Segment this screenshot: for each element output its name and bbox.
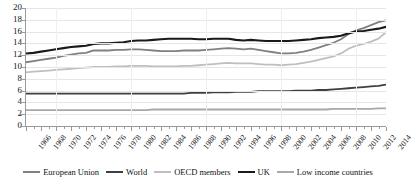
x-axis-tick	[101, 127, 102, 131]
x-axis-tick-label: 1996	[261, 133, 278, 151]
x-axis-tick	[244, 127, 245, 129]
x-axis-tick	[206, 127, 207, 131]
x-axis-tick-label: 1976	[111, 133, 128, 151]
x-axis-tick	[289, 127, 290, 129]
x-axis-tick	[56, 127, 57, 131]
x-axis-tick	[49, 127, 50, 129]
y-axis-tick	[20, 114, 25, 115]
x-axis-tick	[274, 127, 275, 129]
x-axis-tick-label: 2014	[396, 133, 413, 151]
x-axis-tick	[281, 127, 282, 131]
x-axis-tick-label: 1980	[141, 133, 158, 151]
x-axis-tick-label: 2010	[366, 133, 383, 151]
x-axis-tick	[266, 127, 267, 131]
x-axis-tick-label: 1994	[246, 133, 263, 151]
legend-item[interactable]: European Union	[23, 167, 99, 177]
x-axis-tick	[154, 127, 155, 129]
x-axis-tick	[259, 127, 260, 129]
x-axis-tick	[371, 127, 372, 131]
legend-swatch-icon	[23, 171, 40, 173]
x-axis-tick	[41, 127, 42, 131]
x-axis-tick-label: 1986	[186, 133, 203, 151]
x-axis-tick-label: 1978	[126, 133, 143, 151]
x-axis-tick	[304, 127, 305, 129]
x-axis-tick-label: 1988	[201, 133, 218, 151]
x-axis-tick-label: 2006	[336, 133, 353, 151]
x-axis-tick	[386, 127, 387, 131]
x-axis-tick-label: 1982	[156, 133, 173, 151]
x-axis-tick	[379, 127, 380, 129]
legend-item[interactable]: World	[106, 167, 147, 177]
x-axis-tick-label: 2012	[381, 133, 398, 151]
x-axis-tick	[79, 127, 80, 129]
x-axis-tick	[334, 127, 335, 129]
x-axis-tick	[169, 127, 170, 129]
x-axis-tick	[184, 127, 185, 129]
legend-item[interactable]: UK	[238, 167, 270, 177]
x-axis-tick-label: 1990	[216, 133, 233, 151]
y-axis-tick	[20, 43, 25, 44]
x-axis-tick-label: 1968	[51, 133, 68, 151]
x-axis-tick	[86, 127, 87, 131]
x-axis-tick	[26, 127, 27, 131]
y-axis-tick	[20, 91, 25, 92]
legend-label: World	[126, 167, 147, 177]
x-axis-tick-label: 1992	[231, 133, 248, 151]
legend-label: Low income countries	[297, 167, 373, 177]
y-axis-tick	[20, 126, 25, 127]
x-axis-tick	[191, 127, 192, 131]
legend-swatch-icon	[154, 171, 171, 173]
y-axis-tick	[20, 79, 25, 80]
legend-swatch-icon	[277, 171, 294, 173]
x-axis-tick	[326, 127, 327, 131]
y-axis-tick	[20, 8, 25, 9]
x-axis-tick	[34, 127, 35, 129]
x-axis-tick-label: 1972	[81, 133, 98, 151]
legend-label: OECD members	[174, 167, 230, 177]
x-axis-tick	[199, 127, 200, 129]
x-axis-tick	[71, 127, 72, 131]
x-axis-tick-label: 2008	[351, 133, 368, 151]
x-axis-tick	[311, 127, 312, 131]
legend-label: European Union	[43, 167, 99, 177]
x-axis-tick	[94, 127, 95, 129]
x-axis-tick	[214, 127, 215, 129]
x-axis-tick-label: 2000	[291, 133, 308, 151]
legend-label: UK	[258, 167, 270, 177]
x-axis-tick	[139, 127, 140, 129]
legend-swatch-icon	[106, 171, 123, 173]
x-axis-tick-label: 2004	[321, 133, 338, 151]
x-axis-tick-label: 1998	[276, 133, 293, 151]
x-axis-tick	[124, 127, 125, 129]
x-axis-tick	[364, 127, 365, 129]
x-axis-tick-label: 1984	[171, 133, 188, 151]
x-axis-tick	[229, 127, 230, 129]
x-axis-tick	[251, 127, 252, 131]
x-axis-tick	[146, 127, 147, 131]
x-axis-tick-label: 1966	[36, 133, 53, 151]
y-axis-tick	[20, 32, 25, 33]
x-axis-tick	[221, 127, 222, 131]
x-axis-tick	[349, 127, 350, 129]
y-axis-tick	[20, 67, 25, 68]
y-axis-tick	[20, 102, 25, 103]
x-axis-tick	[341, 127, 342, 131]
x-axis-tick-label: 1974	[96, 133, 113, 151]
y-axis-tick	[20, 20, 25, 21]
legend-item[interactable]: Low income countries	[277, 167, 373, 177]
x-axis-tick	[64, 127, 65, 129]
x-axis-tick	[296, 127, 297, 131]
x-axis-tick	[236, 127, 237, 131]
x-axis-tick	[161, 127, 162, 131]
x-axis-tick	[116, 127, 117, 131]
x-axis-tick-label: 1970	[66, 133, 83, 151]
x-axis-tick-label: 2002	[306, 133, 323, 151]
legend-item[interactable]: OECD members	[154, 167, 230, 177]
x-axis-tick	[131, 127, 132, 131]
y-axis-tick	[20, 55, 25, 56]
legend-swatch-icon	[238, 171, 255, 173]
x-axis-tick	[176, 127, 177, 131]
chart-legend: European UnionWorldOECD membersUKLow inc…	[0, 165, 396, 179]
